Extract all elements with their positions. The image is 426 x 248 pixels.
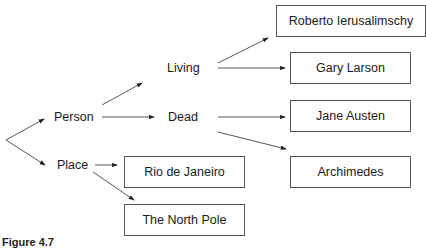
leaf-gary-larson: Gary Larson	[290, 52, 411, 84]
leaf-archimedes: Archimedes	[290, 156, 411, 188]
node-place: Place	[57, 158, 88, 172]
leaf-label: Rio de Janeiro	[144, 165, 225, 179]
node-person: Person	[54, 110, 94, 124]
node-dead: Dead	[168, 110, 198, 124]
node-living: Living	[167, 61, 200, 75]
leaf-label: The North Pole	[142, 213, 226, 227]
figure-caption: Figure 4.7	[2, 236, 54, 248]
leaf-label: Archimedes	[318, 165, 384, 179]
leaf-label: Jane Austen	[316, 109, 385, 123]
leaf-the-north-pole: The North Pole	[124, 204, 245, 236]
leaf-jane-austen: Jane Austen	[290, 100, 411, 132]
leaf-label: Roberto Ierusalimschy	[289, 14, 413, 28]
leaf-roberto-ierusalimschy: Roberto Ierusalimschy	[276, 5, 426, 37]
leaf-label: Gary Larson	[316, 61, 385, 75]
leaf-rio-de-janeiro: Rio de Janeiro	[124, 156, 245, 188]
